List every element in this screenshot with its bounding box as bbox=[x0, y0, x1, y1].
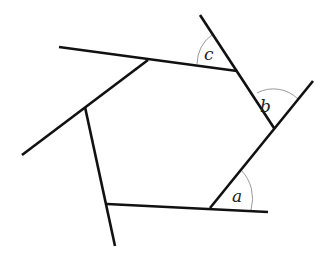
angle-label-c: c bbox=[204, 44, 214, 64]
angle-label-a: a bbox=[232, 186, 242, 206]
hexagon-exterior-angles-diagram: a b c bbox=[0, 0, 335, 263]
polygon-edges bbox=[22, 15, 313, 246]
angle-label-b: b bbox=[260, 96, 271, 116]
bottom-side-line bbox=[107, 204, 268, 212]
left-side-line bbox=[85, 107, 115, 246]
angle-arc-a bbox=[241, 170, 253, 210]
diagram-canvas: a b c bbox=[0, 0, 335, 263]
